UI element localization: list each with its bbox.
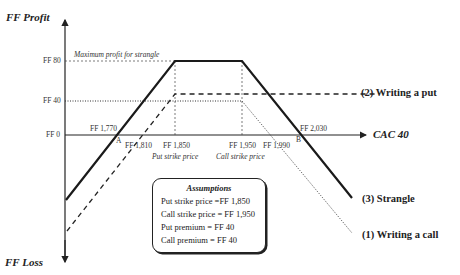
x-tick-1950: FF 1,950 [229, 141, 256, 150]
assumptions-title: Assumptions [153, 182, 265, 195]
x-tick-1850: FF 1,850 [163, 141, 190, 150]
call-strike-caption: Call strike price [216, 152, 265, 161]
x-tick-1810: FF 1,810 [125, 141, 152, 150]
x-tick-2030: FF 2,030 [300, 124, 327, 133]
assumption-call-premium: Call premium = FF 40 [161, 234, 265, 247]
legend-writing-call: (1) Writing a call [362, 229, 438, 240]
put-strike-caption: Put strike price [152, 152, 198, 161]
assumption-call-strike: Call strike price = FF 1,950 [161, 208, 265, 221]
assumption-put-strike: Put strike price =FF 1,850 [161, 195, 265, 208]
y-axis-top-label: FF Profit [6, 11, 50, 23]
point-b: B [296, 135, 301, 144]
y-tick-40: FF 40 [43, 96, 61, 105]
assumptions-box: Assumptions Put strike price =FF 1,850 C… [152, 178, 266, 253]
x-tick-1770: FF 1,770 [90, 124, 117, 133]
x-axis-label: CAC 40 [373, 128, 409, 140]
y-axis-bottom-label: FF Loss [5, 256, 43, 268]
point-a: A [116, 136, 121, 145]
max-profit-annotation: Maximum profit for strangle [74, 50, 159, 59]
legend-writing-put: (2) Writing a put [361, 87, 437, 98]
x-tick-1990: FF 1,990 [263, 141, 290, 150]
y-tick-80: FF 80 [43, 56, 61, 65]
y-tick-0: FF 0 [46, 130, 60, 139]
legend-strangle: (3) Strangle [362, 193, 415, 204]
assumption-put-premium: Put premium = FF 40 [161, 221, 265, 234]
